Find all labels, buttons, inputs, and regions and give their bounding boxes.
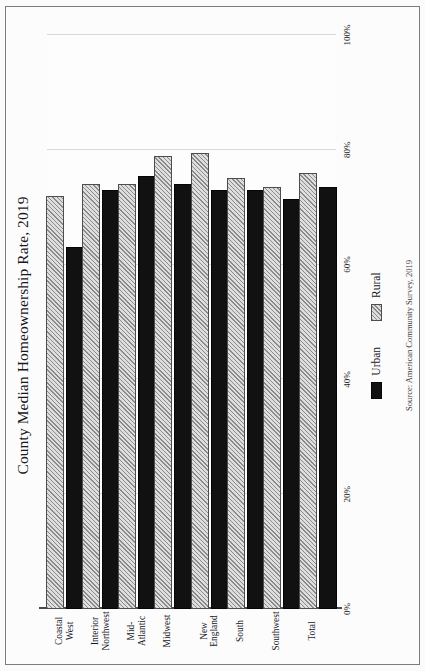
chart-legend: Urban Rural	[370, 0, 382, 671]
category-label: Midwest	[162, 593, 173, 669]
urban-swatch-icon	[371, 382, 382, 399]
value-tick-label: 20%	[342, 486, 352, 503]
bar-rural	[118, 184, 136, 609]
gridline	[47, 149, 336, 150]
category-label: Interior Northwest	[90, 593, 111, 669]
rotated-page-host: County Median Homeownership Rate, 2019 0…	[0, 0, 425, 671]
bar-rural	[46, 196, 64, 609]
rural-swatch-icon	[371, 304, 382, 321]
bar-rural	[263, 187, 281, 609]
plot-area	[47, 35, 336, 609]
bar-rural	[82, 184, 100, 609]
category-label: South	[235, 593, 246, 669]
category-label: Total	[307, 593, 318, 669]
bar-urban	[319, 187, 337, 609]
bar-rural	[191, 153, 209, 609]
legend-label-rural: Rural	[370, 272, 382, 298]
source-note: Source: American Community Survey, 2019	[404, 0, 414, 671]
value-tick-label: 100%	[342, 25, 352, 46]
bar-rural	[154, 156, 172, 609]
legend-item-rural[interactable]: Rural	[370, 272, 382, 321]
category-label: Southwest	[271, 593, 282, 669]
category-label: Coastal West	[54, 593, 75, 669]
chart-title: County Median Homeownership Rate, 2019	[14, 0, 32, 671]
bar-rural	[227, 179, 245, 610]
bar-rural	[299, 173, 317, 609]
gridline	[47, 34, 336, 35]
value-tick-label: 0%	[342, 603, 352, 615]
category-label: New England	[199, 593, 220, 669]
chart-figure: County Median Homeownership Rate, 2019 0…	[0, 0, 425, 671]
value-tick-label: 80%	[342, 142, 352, 159]
category-label: Mid- Atlantic	[126, 593, 147, 669]
legend-label-urban: Urban	[370, 347, 382, 376]
value-tick-label: 40%	[342, 371, 352, 388]
value-tick-label: 60%	[342, 256, 352, 273]
legend-item-urban[interactable]: Urban	[370, 347, 382, 399]
